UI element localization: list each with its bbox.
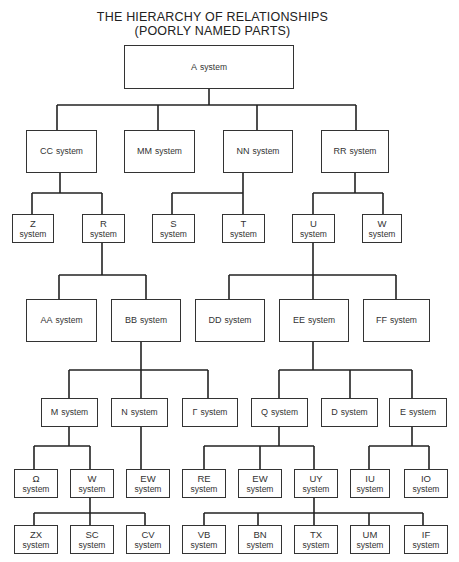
- node-code: D: [331, 407, 338, 418]
- node-code: IO: [421, 473, 431, 484]
- node-suffix: system: [191, 484, 218, 495]
- node-code: UM: [363, 529, 378, 540]
- node-suffix: system: [357, 540, 384, 551]
- node-suffix: system: [90, 229, 117, 240]
- node-code: CC: [40, 146, 53, 157]
- node-suffix: system: [409, 407, 436, 418]
- node-um-system: UM system: [350, 525, 390, 554]
- node-suffix: system: [413, 484, 440, 495]
- node-code: E: [400, 407, 406, 418]
- node-code: NN: [237, 146, 250, 157]
- node-suffix: system: [140, 315, 167, 326]
- node-bb-system: BB system: [111, 299, 181, 342]
- node-t-system: T system: [222, 214, 265, 243]
- node-w-system-lower: W system: [70, 469, 114, 498]
- node-aa-system: AA system: [26, 299, 97, 342]
- node-suffix: system: [201, 407, 228, 418]
- node-code: BN: [253, 529, 266, 540]
- node-ew-system-right: EW system: [238, 469, 282, 498]
- node-code: VB: [198, 529, 211, 540]
- node-uy-system: UY system: [294, 469, 338, 498]
- node-dd-system: DD system: [195, 299, 265, 342]
- node-d-system: D system: [321, 398, 378, 427]
- node-suffix: system: [308, 315, 335, 326]
- node-suffix: system: [135, 484, 162, 495]
- node-code: Ω: [32, 473, 39, 484]
- node-w-system-upper: W system: [362, 214, 402, 243]
- node-code: MM: [137, 146, 152, 157]
- node-code: UY: [309, 473, 322, 484]
- node-code: AA: [41, 315, 53, 326]
- node-bn-system: BN system: [238, 525, 282, 554]
- node-code: EW: [252, 473, 267, 484]
- node-code: R: [100, 218, 107, 229]
- node-suffix: system: [191, 540, 218, 551]
- node-code: FF: [376, 315, 387, 326]
- node-mm-system: MM system: [124, 130, 195, 173]
- node-q-system: Q system: [251, 398, 308, 427]
- node-s-system: S system: [152, 214, 195, 243]
- node-ew-system-left: EW system: [126, 469, 170, 498]
- node-cv-system: CV system: [126, 525, 170, 554]
- node-if-system: IF system: [404, 525, 448, 554]
- node-a-system: A system: [124, 45, 294, 89]
- node-code: EE: [293, 315, 305, 326]
- node-code: S: [170, 218, 176, 229]
- node-suffix: system: [56, 315, 83, 326]
- node-suffix: system: [341, 407, 368, 418]
- node-zx-system: ZX system: [14, 525, 58, 554]
- node-suffix: system: [131, 407, 158, 418]
- node-code: W: [88, 473, 97, 484]
- node-suffix: system: [247, 484, 274, 495]
- node-suffix: system: [135, 540, 162, 551]
- node-re-system: RE system: [182, 469, 226, 498]
- node-tx-system: TX system: [294, 525, 338, 554]
- node-suffix: system: [303, 540, 330, 551]
- node-io-system: IO system: [404, 469, 448, 498]
- node-code: ZX: [30, 529, 42, 540]
- node-omega-system: Ω system: [14, 469, 58, 498]
- node-r-system: R system: [82, 214, 125, 243]
- node-code: U: [310, 218, 317, 229]
- node-suffix: system: [271, 407, 298, 418]
- node-code: BB: [125, 315, 137, 326]
- node-suffix: system: [247, 540, 274, 551]
- node-code: RE: [197, 473, 210, 484]
- node-code: N: [121, 407, 128, 418]
- node-cc-system: CC system: [26, 130, 97, 173]
- node-ff-system: FF system: [363, 299, 430, 342]
- node-code: IU: [365, 473, 375, 484]
- node-code: CV: [141, 529, 154, 540]
- node-e-system: E system: [389, 398, 447, 427]
- node-suffix: system: [61, 407, 88, 418]
- node-ee-system: EE system: [279, 299, 349, 342]
- node-suffix: system: [300, 229, 327, 240]
- node-code: M: [51, 407, 59, 418]
- node-suffix: system: [155, 146, 182, 157]
- node-nn-system: NN system: [223, 130, 293, 173]
- node-code: EW: [140, 473, 155, 484]
- node-suffix: system: [357, 484, 384, 495]
- node-suffix: system: [253, 146, 280, 157]
- node-suffix: system: [56, 146, 83, 157]
- node-vb-system: VB system: [182, 525, 226, 554]
- node-code: IF: [422, 529, 430, 540]
- node-suffix: system: [20, 229, 47, 240]
- node-iu-system: IU system: [350, 469, 390, 498]
- node-gamma-system: Γ system: [182, 398, 238, 427]
- node-code: DD: [209, 315, 222, 326]
- node-code: SC: [85, 529, 98, 540]
- node-rr-system: RR system: [321, 130, 389, 173]
- node-code: A: [191, 62, 197, 73]
- node-u-system: U system: [292, 214, 335, 243]
- node-suffix: system: [369, 229, 396, 240]
- node-code: Q: [261, 407, 268, 418]
- node-z-system: Z system: [12, 214, 54, 243]
- node-code: RR: [334, 146, 347, 157]
- node-code: Z: [30, 218, 36, 229]
- node-suffix: system: [23, 484, 50, 495]
- node-n-system: N system: [111, 398, 168, 427]
- node-suffix: system: [23, 540, 50, 551]
- node-code: W: [378, 218, 387, 229]
- node-suffix: system: [225, 315, 252, 326]
